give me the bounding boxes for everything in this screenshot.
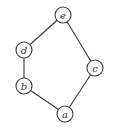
node-label-e: e <box>60 10 66 21</box>
node-b: b <box>16 78 32 94</box>
node-label-d: d <box>21 45 27 56</box>
node-label-c: c <box>92 63 98 74</box>
node-label-a: a <box>62 109 68 120</box>
node-label-b: b <box>21 81 27 92</box>
node-c: c <box>87 60 103 76</box>
graph-diagram: edbca <box>0 0 122 133</box>
node-e: e <box>55 7 71 23</box>
edges-group <box>24 15 95 114</box>
node-d: d <box>16 42 32 58</box>
edge-c-e <box>63 15 95 68</box>
nodes-group: edbca <box>16 7 103 122</box>
node-a: a <box>57 106 73 122</box>
